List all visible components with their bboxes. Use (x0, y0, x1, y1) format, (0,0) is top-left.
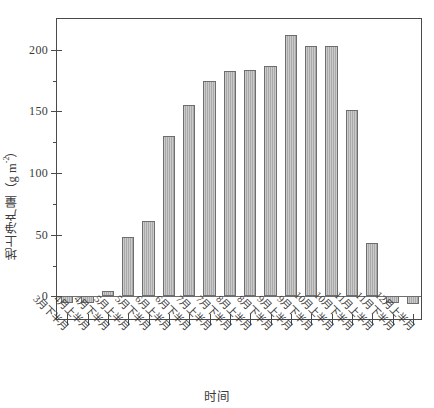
bar (142, 221, 154, 296)
bars-container (57, 19, 421, 319)
y-axis-minor-tick (53, 266, 57, 267)
y-axis-title: 地上净产量（g m-2） (2, 144, 20, 265)
x-axis-tick-labels: 3月下半月4月上半月4月下半月5月上半月5月下半月6月上半月6月下半月7月上半月… (56, 320, 422, 382)
y-axis-minor-tick (53, 204, 57, 205)
x-axis-title: 时间 (0, 386, 434, 405)
y-axis-title-main: 地上净产量（g m (5, 163, 19, 260)
y-axis-tick-label: 100 (29, 166, 48, 181)
bar (264, 66, 276, 297)
plot-area: 050100150200 (56, 18, 422, 320)
bar (305, 46, 317, 296)
bar (122, 237, 134, 296)
y-axis-title-exponent: -2 (2, 157, 11, 164)
bar (203, 81, 215, 297)
bar (366, 243, 378, 296)
bar (346, 110, 358, 296)
bar (285, 35, 297, 296)
y-axis-minor-tick (53, 142, 57, 143)
y-axis-minor-tick (53, 81, 57, 82)
y-axis-tick-label: 200 (29, 42, 48, 57)
y-axis-tick-inner (57, 235, 62, 236)
bar (224, 71, 236, 297)
y-axis-tick-inner (57, 111, 62, 112)
y-axis-tick-label: 150 (29, 104, 48, 119)
y-axis-tick-inner (57, 50, 62, 51)
y-axis-title-tail: ） (5, 144, 19, 157)
bar (407, 296, 419, 303)
bar (163, 136, 175, 296)
bar (325, 46, 337, 296)
y-axis-tick-inner (57, 173, 62, 174)
bar-chart-figure: 地上净产量（g m-2） 050100150200 3月下半月4月上半月4月下半… (0, 0, 434, 408)
y-axis-tick-label: 50 (35, 227, 48, 242)
bar (183, 105, 195, 296)
bar (244, 70, 256, 297)
